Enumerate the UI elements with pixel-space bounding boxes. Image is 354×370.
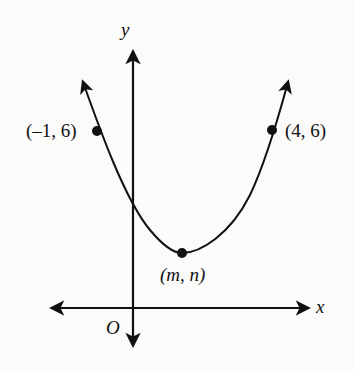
vertex-label: (m, n) — [160, 265, 205, 284]
parabola-curve — [83, 82, 288, 253]
point-left-label: (–1, 6) — [26, 121, 77, 140]
origin-label: O — [106, 318, 120, 337]
y-axis-label: y — [121, 20, 129, 39]
vertex-point — [177, 248, 187, 258]
x-axis-label: x — [316, 297, 324, 316]
point-right — [267, 125, 277, 135]
point-right-label: (4, 6) — [285, 121, 326, 140]
parabola-diagram: y x O (–1, 6) (4, 6) (m, n) — [0, 0, 354, 370]
point-left — [92, 126, 102, 136]
coordinate-plane — [0, 0, 354, 370]
